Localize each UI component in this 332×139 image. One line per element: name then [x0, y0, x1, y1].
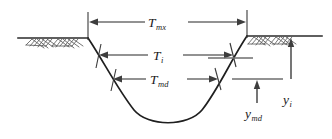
- arrowhead-y-md: [254, 80, 260, 89]
- soil-hatch-left: [26, 39, 83, 48]
- arrowhead-t-md-right: [209, 76, 218, 83]
- dimension-t-mx: Tmx: [88, 10, 247, 40]
- arrowhead-t-mx-right: [237, 19, 246, 26]
- dimension-t-i: Ti: [96, 43, 236, 68]
- label-y-md: ymd: [243, 106, 263, 123]
- dimension-y-md: ymd: [232, 79, 283, 123]
- label-t-md: Tmd: [150, 72, 169, 89]
- channel-cross-section-figure: Tmx Ti Tmd ymd: [0, 0, 332, 139]
- arrowhead-t-mx-left: [89, 19, 98, 26]
- label-t-mx: Tmx: [148, 15, 166, 32]
- ground-surface-left: [18, 38, 88, 48]
- label-t-i: Ti: [153, 48, 164, 65]
- cross-section-drawing: Tmx Ti Tmd ymd: [0, 0, 332, 139]
- label-y-i: yi: [281, 92, 293, 109]
- dimension-t-md: Tmd: [111, 68, 221, 91]
- ground-surface-right: [247, 36, 322, 46]
- ext-line-t-md-left: [111, 69, 116, 91]
- dimension-y-i: yi: [208, 38, 294, 109]
